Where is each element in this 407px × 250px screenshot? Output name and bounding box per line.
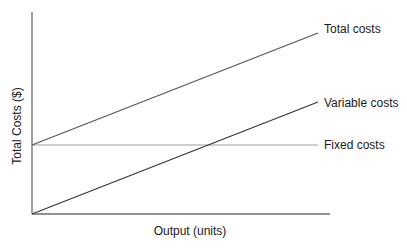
variable-costs-label: Variable costs (324, 96, 398, 110)
x-axis-title: Output (units) (154, 224, 227, 238)
fixed-costs-label: Fixed costs (324, 138, 385, 152)
total-costs-label: Total costs (324, 22, 381, 36)
variable-costs-line (32, 102, 318, 214)
total-costs-line (32, 33, 318, 145)
y-axis-title: Total Costs ($) (10, 87, 24, 164)
cost-chart: Total costs Variable costs Fixed costs O… (0, 0, 407, 250)
